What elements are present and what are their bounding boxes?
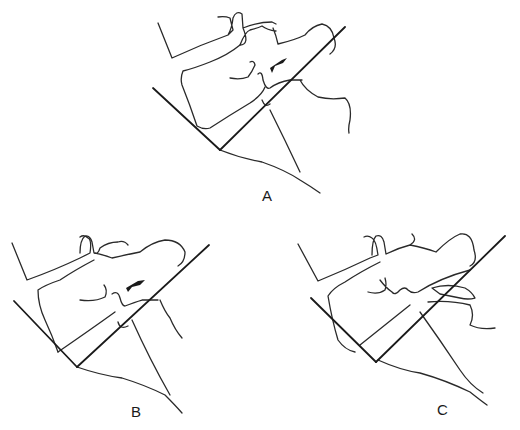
figure-canvas <box>0 0 520 430</box>
panel-c-drawing <box>298 234 505 405</box>
panel-label-b: B <box>131 403 141 420</box>
panel-label-c: C <box>437 401 448 418</box>
dark-mark-a <box>270 58 287 73</box>
dark-mark-b <box>126 280 145 292</box>
panel-b-drawing <box>12 236 209 413</box>
panel-a-drawing <box>153 13 350 193</box>
panel-label-a: A <box>262 187 272 204</box>
